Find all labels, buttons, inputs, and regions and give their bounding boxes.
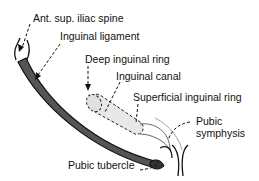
ligament-leader [38, 44, 60, 75]
label-asis: Ant. sup. iliac spine [33, 13, 123, 25]
label-inguinal-ligament: Inguinal ligament [60, 31, 139, 43]
label-deep-inguinal-ring: Deep inguinal ring [85, 54, 170, 66]
label-superficial-inguinal-ring: Superficial inguinal ring [133, 92, 242, 104]
label-pubic: Pubic [196, 116, 222, 128]
superficial-ring-shape [140, 124, 170, 150]
inguinal-anatomy-diagram: Ant. sup. iliac spine Inguinal ligament … [0, 0, 259, 181]
label-pubic-tubercle: Pubic tubercle [68, 160, 135, 172]
pubic-symphysis-left [172, 145, 179, 176]
label-inguinal-canal: Inguinal canal [116, 71, 181, 83]
deep-ring-arrowhead [85, 84, 91, 91]
label-symphysis: symphysis [196, 128, 245, 140]
pubic-symphysis-right [182, 145, 188, 176]
cord-line [155, 118, 182, 150]
